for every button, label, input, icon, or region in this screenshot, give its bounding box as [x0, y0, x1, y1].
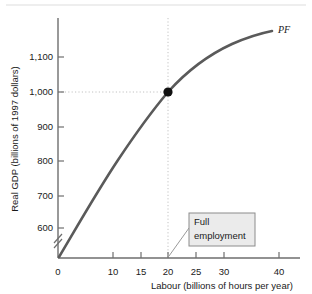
callout-text-line2: employment: [194, 230, 246, 241]
x-axis-title: Labour (billions of hours per year): [151, 280, 293, 291]
x-tick-label-25: 25: [191, 266, 202, 277]
production-function-chart: 1,100 1,000 900 800 700 600 0 10 15 20 2…: [0, 0, 312, 294]
full-employment-marker-dot: [163, 87, 172, 96]
callout-text-line1: Full: [194, 216, 209, 227]
y-axis-title: Real GDP (billions of 1997 dollars): [9, 66, 20, 212]
y-tick-label-700: 700: [37, 190, 53, 201]
y-tick-label-800: 800: [37, 155, 53, 166]
x-tick-label-20: 20: [163, 266, 174, 277]
y-tick-label-900: 900: [37, 121, 53, 132]
x-tick-label-0: 0: [55, 266, 60, 277]
x-tick-label-30: 30: [219, 266, 230, 277]
curve-label-pf: PF: [277, 24, 291, 35]
y-tick-label-600: 600: [37, 222, 53, 233]
x-tick-label-10: 10: [108, 266, 119, 277]
y-tick-label-1100: 1,100: [29, 51, 53, 62]
x-tick-label-40: 40: [274, 266, 285, 277]
x-tick-label-15: 15: [136, 266, 147, 277]
y-tick-label-1000: 1,000: [29, 86, 53, 97]
chart-background: [0, 0, 312, 294]
